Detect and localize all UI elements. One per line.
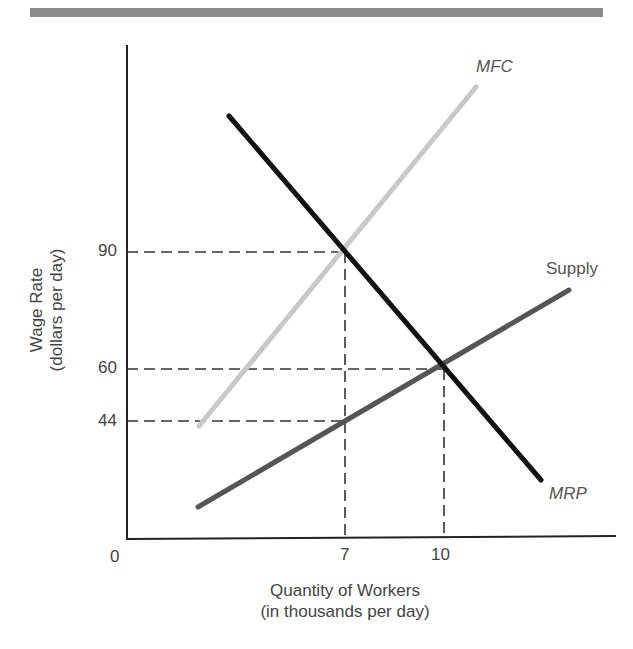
- supply-label: Supply: [546, 259, 598, 279]
- supply-curve: [198, 290, 569, 507]
- y-tick-90: 90: [98, 241, 117, 261]
- dashed-guides: [127, 252, 444, 538]
- x-tick-10: 10: [431, 545, 450, 565]
- mrp-curve: [229, 116, 541, 480]
- x-axis-label-line1: Quantity of Workers: [230, 580, 460, 601]
- x-axis-label-line2: (in thousands per day): [230, 601, 460, 622]
- x-axis: [126, 536, 616, 539]
- y-tick-44: 44: [98, 411, 117, 431]
- mrp-label: MRP: [549, 484, 587, 504]
- y-axis-label-line2: (dollars per day): [47, 249, 67, 372]
- y-tick-60: 60: [98, 358, 117, 378]
- x-tick-0: 0: [110, 547, 119, 567]
- mfc-curve: [199, 87, 476, 426]
- chart-plot-area: [0, 0, 633, 649]
- x-tick-7: 7: [340, 545, 349, 565]
- x-axis-label: Quantity of Workers (in thousands per da…: [230, 580, 460, 622]
- mfc-label: MFC: [476, 57, 513, 77]
- y-axis-label-line1: Wage Rate: [27, 249, 47, 372]
